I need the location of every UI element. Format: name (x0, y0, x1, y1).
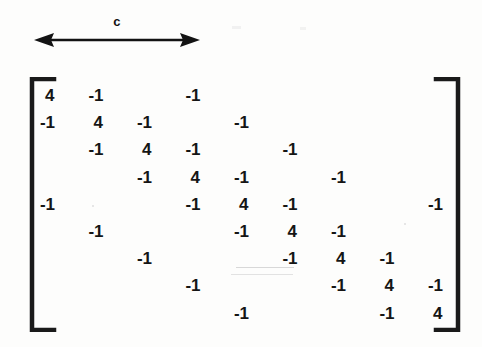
matrix-cell-r5-c1: -1 (40, 195, 55, 214)
matrix: 4-1-1-14-1-1-14-1-1-14-1-1-1-14-1-1-1-14… (0, 0, 482, 347)
matrix-cell-r8-c7: -1 (331, 276, 346, 295)
matrix-cell-r3-c4: -1 (186, 140, 201, 159)
matrix-cell-r4-c4: 4 (191, 168, 200, 187)
figure-canvas: c 4-1-1-14-1-1-14-1-1-14-1-1-1-14-1-1-1-… (0, 0, 482, 347)
matrix-cell-r6-c5: -1 (234, 222, 249, 241)
matrix-cell-r7-c3: -1 (137, 249, 152, 268)
matrix-cell-r9-c8: -1 (380, 304, 395, 323)
matrix-cell-r4-c7: -1 (331, 168, 346, 187)
matrix-cell-r5-c6: -1 (283, 195, 298, 214)
scan-speckle (232, 26, 241, 29)
scan-speckle (404, 223, 406, 225)
matrix-cell-r3-c6: -1 (283, 140, 298, 159)
matrix-cell-r1-c4: -1 (186, 86, 201, 105)
scan-artifact (231, 274, 293, 275)
matrix-cell-r2-c3: -1 (137, 113, 152, 132)
matrix-cell-r6-c6: 4 (288, 222, 297, 241)
matrix-cell-r9-c9: 4 (433, 304, 442, 323)
matrix-cell-r7-c8: -1 (380, 249, 395, 268)
matrix-cell-r3-c2: -1 (89, 140, 104, 159)
matrix-cell-r9-c5: -1 (234, 304, 249, 323)
scan-speckle (300, 27, 306, 30)
matrix-cell-r4-c3: -1 (137, 168, 152, 187)
matrix-cell-r6-c7: -1 (331, 222, 346, 241)
matrix-cell-r2-c2: 4 (94, 113, 103, 132)
matrix-cell-r1-c2: -1 (89, 86, 104, 105)
matrix-cell-r5-c5: 4 (239, 195, 248, 214)
matrix-cell-r2-c1: -1 (40, 113, 55, 132)
matrix-cell-r6-c2: -1 (89, 222, 104, 241)
scan-artifact (236, 267, 294, 268)
matrix-cell-r7-c7: 4 (336, 249, 345, 268)
scan-speckle (92, 205, 94, 207)
matrix-cell-r4-c5: -1 (234, 168, 249, 187)
matrix-cell-r5-c4: -1 (186, 195, 201, 214)
matrix-cell-r5-c9: -1 (428, 195, 443, 214)
matrix-cell-r8-c8: 4 (385, 276, 394, 295)
matrix-cell-r3-c3: 4 (142, 140, 151, 159)
matrix-cell-r1-c1: 4 (45, 86, 54, 105)
matrix-cell-r7-c6: -1 (283, 249, 298, 268)
matrix-cell-r8-c4: -1 (186, 276, 201, 295)
matrix-cell-r8-c9: -1 (428, 276, 443, 295)
matrix-cell-r2-c5: -1 (234, 113, 249, 132)
